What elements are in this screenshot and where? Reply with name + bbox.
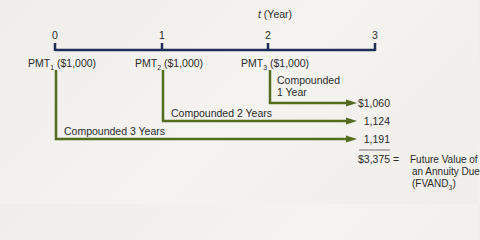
total-future-value: $3,375 = (358, 153, 399, 165)
diagram-canvas (0, 0, 478, 204)
axis-title-variable: t (258, 8, 261, 20)
flow-label-3-years: Compounded 3 Years (64, 125, 165, 137)
future-value-pmt2: 1,124 (350, 115, 390, 127)
equals-sign: = (393, 153, 399, 165)
total-value: $3,375 (358, 153, 390, 165)
tick-label-3: 3 (372, 29, 378, 41)
future-value-pmt3: $1,060 (350, 97, 390, 109)
tick-label-0: 0 (52, 29, 58, 41)
timeline-axis (55, 43, 375, 51)
future-value-pmt1: 1,191 (350, 133, 390, 145)
flow-label-1-year: Compounded 1 Year (277, 74, 340, 98)
tick-label-2: 2 (265, 29, 271, 41)
total-description: Future Value of an Annuity Due (FVAND3) (410, 154, 480, 194)
tick-label-1: 1 (159, 29, 165, 41)
axis-title: t (Year) (258, 8, 292, 20)
payment-label-2: PMT2 ($1,000) (135, 57, 203, 71)
flow-label-2-years: Compounded 2 Years (171, 107, 272, 119)
axis-title-unit: (Year) (264, 8, 292, 20)
payment-label-1: PMT1 ($1,000) (28, 57, 96, 71)
payment-label-3: PMT3 ($1,000) (241, 57, 309, 71)
